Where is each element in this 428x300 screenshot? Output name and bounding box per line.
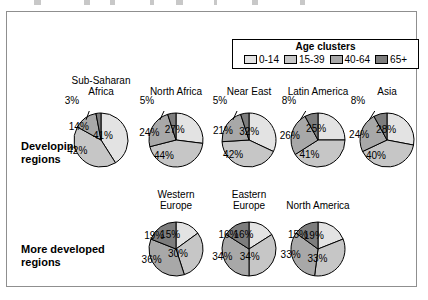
pie-slice-label: 5% xyxy=(140,96,154,106)
row-label-more-developed-regions: More developed regions xyxy=(21,243,131,269)
pie-slice-label: 5% xyxy=(213,96,227,106)
pie-slice-label: 19% xyxy=(144,231,164,241)
cut-off-glyph xyxy=(300,0,305,5)
pie-slice-label: 44% xyxy=(154,151,174,161)
pie-slice-label: 41% xyxy=(299,150,319,160)
cut-off-glyph xyxy=(34,0,41,5)
legend-swatch-icon xyxy=(284,55,297,64)
pie-cell-western-europe: Western Europe15%30%36%19% xyxy=(134,189,218,278)
legend-item-40-64: 40-64 xyxy=(330,54,371,65)
legend-label: 15-39 xyxy=(299,54,325,65)
cut-off-glyph xyxy=(176,0,183,5)
pie-slice-label: 33% xyxy=(281,250,301,260)
pie-slice-label: 36% xyxy=(142,255,162,265)
legend-label: 40-64 xyxy=(345,54,371,65)
pie-cell-north-america: North America19%33%33%15% xyxy=(276,200,360,278)
legend-item-65plus: 65+ xyxy=(375,54,407,65)
pie-slice-label: 28% xyxy=(376,125,396,135)
pie-sub-saharan-africa: 41%42%14%3% xyxy=(59,111,143,169)
pie-slice-label: 42% xyxy=(67,146,87,156)
legend-label: 0-14 xyxy=(259,54,279,65)
pie-slice-label: 15% xyxy=(288,230,308,240)
pie-north-america: 19%33%33%15% xyxy=(276,220,360,278)
pie-slice-label: 24% xyxy=(349,130,369,140)
legend-swatch-icon xyxy=(244,55,257,64)
legend-items: 0-1415-3940-6465+ xyxy=(233,54,418,65)
pie-asia: 28%40%24%8% xyxy=(345,111,428,169)
legend: Age clusters 0-1415-3940-6465+ xyxy=(232,39,419,69)
pie-western-europe: 15%30%36%19% xyxy=(134,220,218,278)
legend-item-15-39: 15-39 xyxy=(284,54,325,65)
pie-slice-label: 32% xyxy=(239,127,259,137)
pie-slice-label: 40% xyxy=(366,151,386,161)
pie-slice-label: 24% xyxy=(139,128,159,138)
pie-slice-label: 27% xyxy=(165,125,185,135)
cut-off-glyph xyxy=(110,0,115,5)
pie-slice-label: 34% xyxy=(212,252,232,262)
pie-slice-label: 30% xyxy=(168,249,188,259)
cut-off-text-strip xyxy=(0,0,428,9)
pie-title-north-america: North America xyxy=(276,200,360,211)
legend-swatch-icon xyxy=(375,55,388,64)
pie-slice-label: 16% xyxy=(218,230,238,240)
legend-title: Age clusters xyxy=(233,41,418,53)
pie-slice-label: 8% xyxy=(282,96,296,106)
pie-slice-label: 34% xyxy=(240,252,260,262)
pie-slice-label: 25% xyxy=(306,124,326,134)
pie-slice-label: 26% xyxy=(280,131,300,141)
figure-pie-chart-panel: Age clusters 0-1415-3940-6465+ Developin… xyxy=(0,0,428,300)
pie-title-sub-saharan-africa: Sub-Saharan Africa xyxy=(59,75,143,97)
pie-cell-asia: Asia28%40%24%8% xyxy=(345,86,428,169)
pie-slice-label: 14% xyxy=(69,122,89,132)
pie-slice-label: 8% xyxy=(351,96,365,106)
pie-title-western-europe: Western Europe xyxy=(134,189,218,211)
legend-item-0-14: 0-14 xyxy=(244,54,279,65)
pie-cell-north-africa: North Africa27%44%24%5% xyxy=(134,86,218,169)
pie-slice-label: 41% xyxy=(93,131,113,141)
pie-cell-sub-saharan-africa: Sub-Saharan Africa41%42%14%3% xyxy=(59,75,143,169)
pie-north-africa: 27%44%24%5% xyxy=(134,111,218,169)
pie-slice-label: 3% xyxy=(65,96,79,106)
pie-slice-label: 33% xyxy=(307,254,327,264)
cut-off-glyph xyxy=(252,0,258,5)
figure-frame: Age clusters 0-1415-3940-6465+ Developin… xyxy=(6,11,417,287)
cut-off-glyph xyxy=(84,0,90,5)
legend-swatch-icon xyxy=(330,55,343,64)
legend-label: 65+ xyxy=(390,54,407,65)
cut-off-glyph xyxy=(150,0,154,5)
cut-off-glyph xyxy=(214,0,217,5)
pie-slice-label: 21% xyxy=(213,126,233,136)
pie-slice-label: 42% xyxy=(223,150,243,160)
